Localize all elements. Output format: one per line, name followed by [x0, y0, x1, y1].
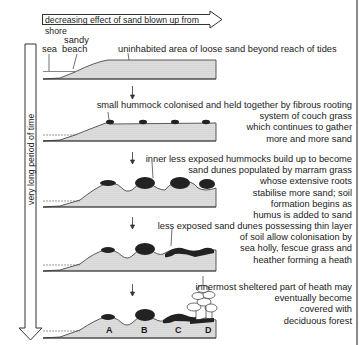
stage2-description: small hummock colonised and held togethe… [52, 100, 352, 145]
zone-label-b: B [141, 325, 148, 336]
stage4-description: less exposed sand dunes possessing thin … [92, 221, 352, 266]
stage5-description: innermost sheltered part of heath may ev… [92, 282, 352, 327]
stage3-description: inner less exposed hummocks build up to … [92, 154, 352, 221]
zone-label-a: A [106, 325, 113, 336]
top-arrow-head [210, 11, 222, 28]
beach-label: beach [62, 44, 87, 55]
stage1-description: uninhabited area of loose sand beyond re… [118, 44, 337, 55]
sea-label: sea [42, 44, 57, 55]
edge-rule [356, 0, 358, 345]
zone-label-d: D [205, 325, 212, 336]
zone-label-c: C [175, 325, 182, 336]
sand-effect-banner: decreasing effect of sand blown up from … [42, 14, 210, 25]
stage1-profile [43, 53, 216, 79]
time-axis-label: very long period of time [26, 114, 36, 205]
